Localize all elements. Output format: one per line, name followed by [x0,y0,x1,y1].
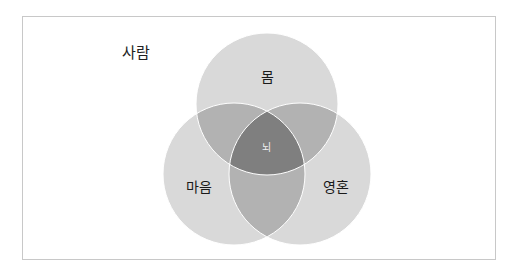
label-soul: 영혼 [323,176,349,196]
label-body: 몸 [261,66,274,86]
label-mind: 마음 [186,176,212,196]
venn-diagram [0,0,518,275]
label-intersection: 뇌 [262,139,271,154]
